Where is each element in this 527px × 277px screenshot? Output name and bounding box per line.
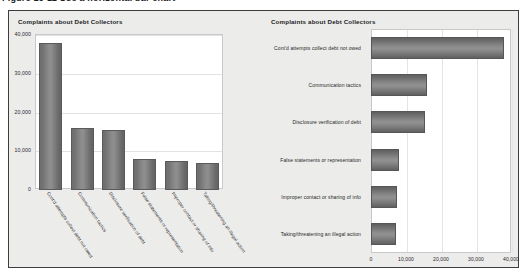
horizontal-chart-title: Complaints about Debt Collectors: [271, 18, 376, 25]
horizontal-bar[interactable]: [371, 74, 427, 96]
vertical-chart-bars: [35, 34, 223, 190]
vertical-chart-x-axis-labels: Cont'd attempts collect debt not owedCom…: [35, 191, 235, 267]
y-axis-tick-label: 20,000: [15, 109, 31, 115]
y-axis-tick-label: 40,000: [15, 31, 31, 37]
category-label: Communication tactics: [309, 82, 361, 88]
horizontal-chart-category-labels: Cont'd attempts collect debt not owedCom…: [237, 29, 367, 254]
x-axis-tick-label: 0: [370, 256, 373, 262]
x-axis-tick-label: 20,000: [433, 256, 449, 262]
vertical-bar[interactable]: [165, 161, 188, 190]
x-axis-tick-label: 30,000: [468, 256, 484, 262]
vertical-chart-y-axis: 010,00020,00030,00040,000: [9, 34, 33, 190]
cut-off-caption-strip: Figure 16-11 Use a horizontal bar chart: [0, 0, 527, 9]
vertical-bar[interactable]: [39, 43, 62, 190]
y-axis-tick-label: 10,000: [15, 147, 31, 153]
horizontal-bar[interactable]: [371, 186, 397, 208]
vertical-bar-chart: Complaints about Debt Collectors 010,000…: [9, 11, 237, 269]
horizontal-bar[interactable]: [371, 111, 425, 133]
horizontal-chart-x-axis: 010,00020,00030,00040,000: [371, 256, 521, 268]
y-axis-tick-label: 30,000: [15, 70, 31, 76]
category-label: Disclosure verification of debt: [293, 119, 361, 125]
vertical-bar[interactable]: [196, 163, 219, 190]
y-axis-tick-label: 0: [28, 186, 31, 192]
cut-off-caption-text: Figure 16-11 Use a horizontal bar chart: [2, 0, 175, 3]
vertical-bar[interactable]: [71, 128, 94, 190]
horizontal-bar[interactable]: [371, 37, 504, 59]
horizontal-chart-bars: [371, 29, 512, 254]
horizontal-bar-chart: Complaints about Debt Collectors Cont'd …: [237, 11, 518, 269]
category-label: Improper contact or sharing of info: [281, 194, 361, 200]
gridline: [512, 30, 513, 252]
vertical-bar[interactable]: [102, 130, 125, 190]
x-axis-category-label: Communication tactics: [77, 191, 108, 233]
category-label: False statements or representation: [280, 157, 361, 163]
x-axis-category-label: Disclosure verification of debt: [108, 191, 147, 245]
horizontal-bar[interactable]: [371, 149, 399, 171]
vertical-chart-title: Complaints about Debt Collectors: [18, 18, 123, 25]
x-axis-tick-label: 40,000: [503, 256, 519, 262]
x-axis-tick-label: 10,000: [398, 256, 414, 262]
category-label: Cont'd attempts collect debt not owed: [274, 45, 361, 51]
vertical-bar[interactable]: [133, 159, 156, 190]
charts-panel: Complaints about Debt Collectors 010,000…: [8, 10, 519, 268]
category-label: Taking/threatening an illegal action: [281, 231, 361, 237]
horizontal-bar[interactable]: [371, 223, 396, 245]
